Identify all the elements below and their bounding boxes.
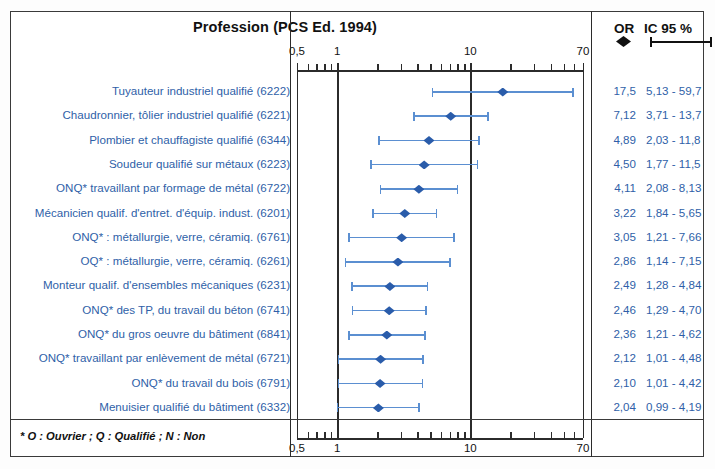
ci-lower-cap	[348, 331, 350, 340]
row-or-value: 4,50	[596, 157, 636, 170]
forest-rows: Tuyauteur industriel qualifié (6222)17,5…	[0, 0, 715, 469]
ci-upper-cap	[422, 379, 424, 388]
ci-lower-cap	[432, 88, 434, 97]
forest-row: Monteur qualif. d'ensembles mécaniques (…	[0, 274, 715, 298]
forest-row: Plombier et chauffagiste qualifié (6344)…	[0, 129, 715, 153]
odds-ratio-marker	[375, 379, 386, 388]
ci-upper-cap	[424, 331, 426, 340]
ci-lower-cap	[380, 185, 382, 194]
row-or-value: 2,12	[596, 351, 636, 364]
ci-lower-cap	[370, 160, 372, 169]
odds-ratio-marker	[381, 331, 392, 340]
row-or-value: 4,11	[596, 181, 636, 194]
ci-lower-cap	[348, 233, 350, 242]
row-label: Monteur qualif. d'ensembles mécaniques (…	[14, 278, 290, 291]
row-label: Soudeur qualifié sur métaux (6223)	[14, 157, 290, 170]
row-or-value: 17,5	[596, 84, 636, 97]
row-or-value: 3,05	[596, 230, 636, 243]
ci-lower-cap	[378, 136, 380, 145]
odds-ratio-marker	[413, 185, 424, 194]
ci-upper-cap	[478, 136, 480, 145]
row-label: Chaudronnier, tôlier industriel qualifié…	[14, 108, 290, 121]
ci-lower-cap	[337, 403, 339, 412]
odds-ratio-marker	[396, 233, 407, 242]
ci-lower-cap	[345, 258, 347, 267]
forest-row: Menuisier qualifié du bâtiment (6332)2,0…	[0, 396, 715, 420]
forest-row: ONQ* des TP, du travail du béton (6741)2…	[0, 299, 715, 323]
row-or-value: 4,89	[596, 133, 636, 146]
ci-upper-cap	[425, 306, 427, 315]
forest-row: OQ* : métallurgie, verre, céramiq. (6261…	[0, 250, 715, 274]
row-label: ONQ* travaillant par formage de métal (6…	[14, 181, 290, 194]
row-label: ONQ* travaillant par enlèvement de métal…	[14, 351, 290, 364]
row-or-value: 7,12	[596, 108, 636, 121]
row-ci-value: 2,08 - 8,13	[646, 181, 715, 194]
forest-row: Mécanicien qualif. d'entret. d'équip. in…	[0, 202, 715, 226]
forest-row: Chaudronnier, tôlier industriel qualifié…	[0, 104, 715, 128]
forest-row: ONQ* travaillant par formage de métal (6…	[0, 177, 715, 201]
row-label: ONQ* du gros oeuvre du bâtiment (6841)	[14, 327, 290, 340]
ci-upper-cap	[477, 160, 479, 169]
row-label: ONQ* du travail du bois (6791)	[14, 376, 290, 389]
row-or-value: 2,49	[596, 278, 636, 291]
row-or-value: 2,86	[596, 254, 636, 267]
row-or-value: 2,04	[596, 400, 636, 413]
odds-ratio-marker	[375, 355, 386, 364]
row-label: Tuyauteur industriel qualifié (6222)	[14, 84, 290, 97]
forest-plot-figure: Profession (PCS Ed. 1994) OR IC 95 % 0,5…	[0, 0, 715, 469]
row-ci-value: 2,03 - 11,8	[646, 133, 715, 146]
odds-ratio-marker	[445, 112, 456, 121]
row-ci-value: 1,01 - 4,48	[646, 351, 715, 364]
ci-upper-cap	[436, 209, 438, 218]
ci-upper-cap	[453, 233, 455, 242]
forest-row: ONQ* du gros oeuvre du bâtiment (6841)2,…	[0, 323, 715, 347]
ci-lower-cap	[338, 379, 340, 388]
row-label: Mécanicien qualif. d'entret. d'équip. in…	[14, 206, 290, 219]
row-ci-value: 1,01 - 4,42	[646, 376, 715, 389]
ci-upper-cap	[457, 185, 459, 194]
row-ci-value: 1,84 - 5,65	[646, 206, 715, 219]
row-or-value: 2,46	[596, 303, 636, 316]
ci-upper-cap	[572, 88, 574, 97]
row-label: Menuisier qualifié du bâtiment (6332)	[14, 400, 290, 413]
row-label: ONQ* : métallurgie, verre, céramiq. (676…	[14, 230, 290, 243]
ci-upper-cap	[487, 112, 489, 121]
row-ci-value: 0,99 - 4,19	[646, 400, 715, 413]
ci-lower-cap	[413, 112, 415, 121]
row-ci-value: 1,29 - 4,70	[646, 303, 715, 316]
odds-ratio-marker	[419, 160, 430, 169]
forest-row: Soudeur qualifié sur métaux (6223)4,501,…	[0, 153, 715, 177]
odds-ratio-marker	[384, 282, 395, 291]
footnote-text: * O : Ouvrier ; Q : Qualifié ; N : Non	[20, 430, 205, 442]
odds-ratio-marker	[399, 209, 410, 218]
odds-ratio-marker	[384, 306, 395, 315]
row-ci-value: 1,28 - 4,84	[646, 278, 715, 291]
row-label: ONQ* des TP, du travail du béton (6741)	[14, 303, 290, 316]
forest-row: ONQ* : métallurgie, verre, céramiq. (676…	[0, 226, 715, 250]
odds-ratio-marker	[423, 136, 434, 145]
odds-ratio-marker	[497, 88, 508, 97]
row-or-value: 2,36	[596, 327, 636, 340]
row-or-value: 2,10	[596, 376, 636, 389]
row-ci-value: 3,71 - 13,7	[646, 108, 715, 121]
ci-lower-cap	[352, 306, 354, 315]
row-ci-value: 1,77 - 11,5	[646, 157, 715, 170]
row-ci-value: 5,13 - 59,7	[646, 84, 715, 97]
ci-lower-cap	[338, 355, 340, 364]
forest-row: ONQ* du travail du bois (6791)2,101,01 -…	[0, 372, 715, 396]
ci-upper-cap	[418, 403, 420, 412]
row-label: OQ* : métallurgie, verre, céramiq. (6261…	[14, 254, 290, 267]
row-or-value: 3,22	[596, 206, 636, 219]
ci-upper-cap	[427, 282, 429, 291]
odds-ratio-marker	[373, 403, 384, 412]
row-ci-value: 1,14 - 7,15	[646, 254, 715, 267]
row-label: Plombier et chauffagiste qualifié (6344)	[14, 133, 290, 146]
ci-upper-cap	[449, 258, 451, 267]
odds-ratio-marker	[392, 258, 403, 267]
forest-row: Tuyauteur industriel qualifié (6222)17,5…	[0, 80, 715, 104]
ci-lower-cap	[351, 282, 353, 291]
forest-row: ONQ* travaillant par enlèvement de métal…	[0, 347, 715, 371]
row-ci-value: 1,21 - 7,66	[646, 230, 715, 243]
row-ci-value: 1,21 - 4,62	[646, 327, 715, 340]
ci-lower-cap	[372, 209, 374, 218]
